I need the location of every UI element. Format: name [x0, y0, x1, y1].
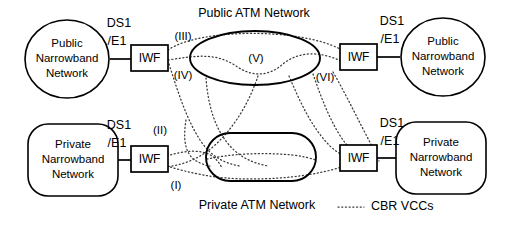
ds1-label-top-left-line1: DS1	[107, 16, 131, 30]
public-narrowband-left-line2: Narrowband	[36, 52, 99, 64]
private-narrowband-left-line2: Narrowband	[42, 153, 105, 165]
iwf-label-top-left: IWF	[139, 51, 160, 65]
ds1-label-bottom-left-line2: /E1	[108, 136, 127, 150]
vcc-label-ii: (II)	[153, 124, 167, 136]
private-narrowband-right-line2: Narrowband	[410, 151, 473, 163]
vcc-path-left-cross	[206, 78, 268, 166]
public-narrowband-right-line2: Narrowband	[412, 50, 475, 62]
ds1-label-bottom-right-line1: DS1	[380, 116, 404, 130]
ds1-label-bottom-left-line1: DS1	[107, 118, 131, 132]
diagram-canvas: Public ATM Network Private ATM Network P…	[0, 0, 506, 235]
iwf-label-bottom-right: IWF	[348, 151, 369, 165]
legend-label-cbr-vccs: CBR VCCs	[371, 199, 434, 213]
ds1-label-bottom-right-line2: /E1	[381, 134, 400, 148]
public-narrowband-right-line3: Network	[422, 65, 464, 77]
public-atm-title: Public ATM Network	[198, 6, 310, 20]
vcc-label-vi: (VI)	[316, 71, 335, 83]
ds1-label-top-left-line2: /E1	[108, 34, 127, 48]
ds1-label-top-right-line2: /E1	[381, 32, 400, 46]
vcc-path-private-internal	[207, 154, 316, 160]
network-diagram: Public ATM Network Private ATM Network P…	[0, 0, 506, 235]
private-narrowband-right-line1: Private	[423, 136, 459, 148]
private-atm-cloud	[206, 133, 316, 181]
iwf-label-bottom-left: IWF	[139, 152, 160, 166]
public-narrowband-right-line1: Public	[427, 35, 459, 47]
vcc-label-v: (V)	[248, 52, 264, 64]
private-atm-title: Private ATM Network	[199, 198, 316, 212]
public-narrowband-left-line1: Public	[51, 37, 83, 49]
private-narrowband-right-line3: Network	[420, 166, 462, 178]
vcc-label-i: (I)	[171, 179, 182, 191]
private-narrowband-left-line1: Private	[55, 138, 91, 150]
iwf-label-top-right: IWF	[348, 50, 369, 64]
private-narrowband-left-line3: Network	[52, 168, 94, 180]
ds1-label-top-right-line1: DS1	[380, 14, 404, 28]
public-narrowband-left-line3: Network	[46, 67, 88, 79]
vcc-label-iv: (IV)	[174, 69, 193, 81]
vcc-label-iii: (III)	[174, 30, 191, 42]
